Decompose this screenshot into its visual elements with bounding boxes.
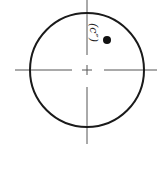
point-dot: [103, 36, 111, 44]
diagram-canvas: [0, 0, 157, 169]
point-label: (c″): [87, 23, 100, 42]
centerlines: [15, 0, 157, 144]
